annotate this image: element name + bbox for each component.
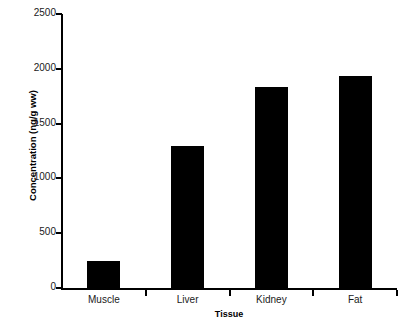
- y-axis-tick-mark: [56, 13, 62, 15]
- y-axis-tick-label: 500: [20, 227, 56, 237]
- y-axis-tick-mark: [56, 287, 62, 289]
- plot-area: [62, 14, 397, 288]
- y-axis-tick-label: 2000: [20, 63, 56, 73]
- y-axis-tick-label: 0: [20, 282, 56, 292]
- x-axis-tick-label: Kidney: [230, 294, 314, 306]
- y-axis-tick-mark: [56, 123, 62, 125]
- y-axis-tick-mark: [56, 232, 62, 234]
- bar-muscle: [87, 261, 120, 288]
- y-axis-tick-mark: [56, 68, 62, 70]
- bar-chart: Concentration (ng/g ww) 0500100015002000…: [0, 0, 407, 328]
- y-axis-tick-label: 1500: [20, 118, 56, 128]
- bar-kidney: [255, 87, 288, 288]
- y-axis-tick-label: 2500: [20, 8, 56, 18]
- bar-liver: [171, 146, 204, 288]
- y-axis-tick-mark: [56, 177, 62, 179]
- y-axis-tick-label: 1000: [20, 172, 56, 182]
- y-axis-tick-labels: 05001000150020002500: [18, 0, 56, 328]
- x-axis-tick-label: Muscle: [62, 294, 146, 306]
- x-axis-tick-label: Liver: [146, 294, 230, 306]
- x-axis-title: Tissue: [61, 309, 397, 319]
- bar-fat: [339, 76, 372, 288]
- x-axis-tick-label: Fat: [313, 294, 397, 306]
